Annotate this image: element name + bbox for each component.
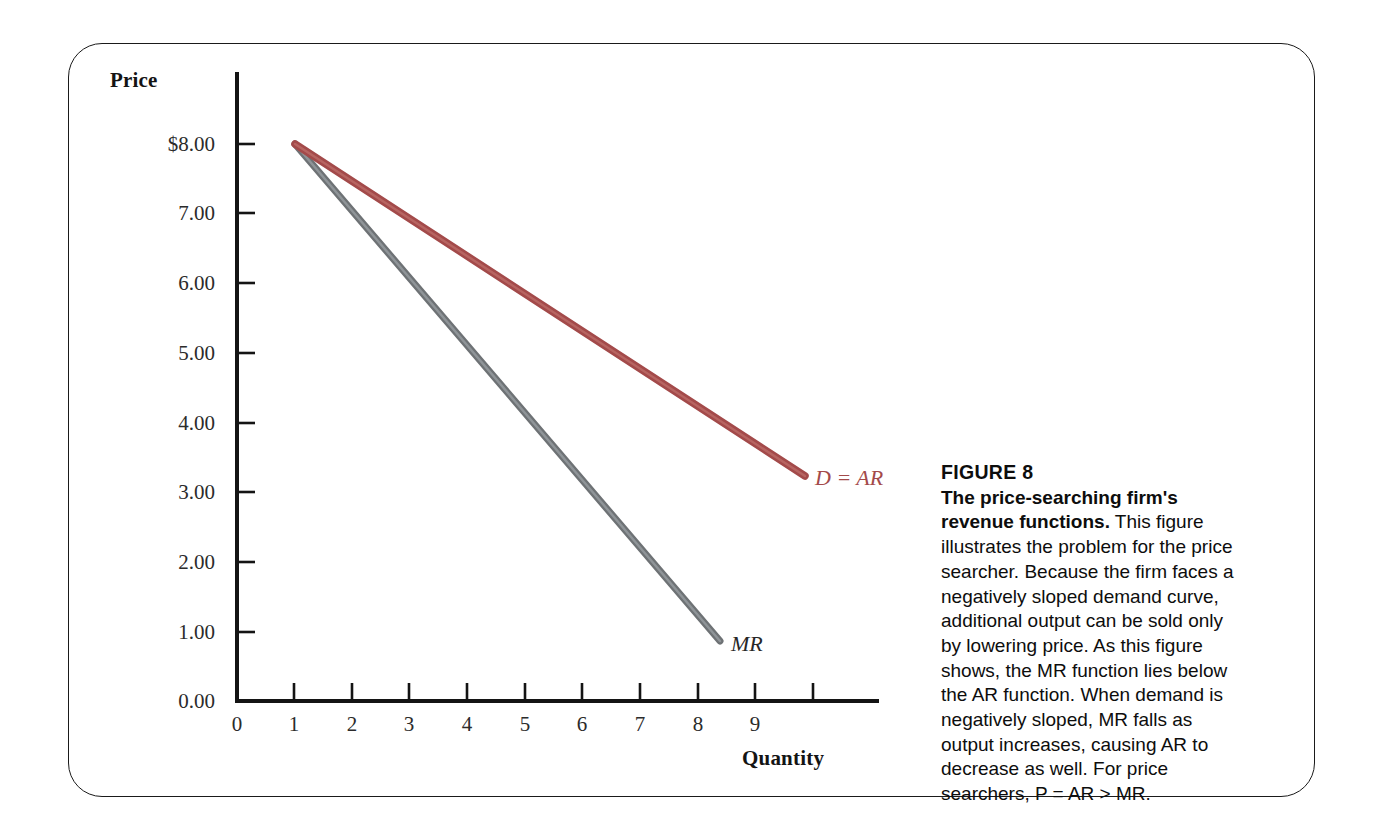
figure-panel: Price Quantity $8.00 7.00 6.00 5.00 4.00…	[68, 43, 1315, 797]
x-axis-title: Quantity	[742, 746, 824, 771]
y-tick-label: 5.00	[85, 341, 215, 366]
x-tick-label: 5	[520, 712, 531, 737]
marginal-revenue-curve-label: MR	[731, 631, 763, 657]
y-tick-label: 1.00	[85, 620, 215, 645]
demand-curve-highlight	[295, 144, 805, 476]
y-tick-label: 7.00	[85, 201, 215, 226]
x-tick-label: 3	[404, 712, 415, 737]
y-tick-label: 4.00	[85, 411, 215, 436]
demand-curve-label: D = AR	[815, 465, 883, 491]
x-tick-label: 4	[462, 712, 473, 737]
y-axis-title: Price	[110, 68, 158, 93]
y-tick-label: 0.00	[85, 689, 215, 714]
y-tick-label: 2.00	[85, 550, 215, 575]
x-tick-label: 6	[577, 712, 588, 737]
x-tick-label: 8	[693, 712, 704, 737]
x-axis-ticks	[294, 683, 813, 701]
x-tick-label: 0	[232, 712, 243, 737]
x-tick-label: 2	[347, 712, 358, 737]
marginal-revenue-curve-highlight	[295, 144, 720, 641]
x-tick-label: 1	[289, 712, 300, 737]
y-axis-ticks	[237, 144, 255, 632]
figure-caption: FIGURE 8 The price-searching firm's reve…	[941, 461, 1241, 807]
figure-caption-body: This figure illustrates the problem for …	[941, 511, 1234, 804]
y-tick-label: 6.00	[85, 271, 215, 296]
y-tick-label: $8.00	[85, 132, 215, 157]
x-tick-label: 7	[635, 712, 646, 737]
figure-caption-text: The price-searching firm's revenue funct…	[941, 486, 1241, 807]
chart-plot-area: Price Quantity $8.00 7.00 6.00 5.00 4.00…	[69, 44, 969, 798]
x-tick-label: 9	[750, 712, 761, 737]
y-tick-label: 3.00	[85, 480, 215, 505]
figure-number-label: FIGURE 8	[941, 461, 1241, 485]
